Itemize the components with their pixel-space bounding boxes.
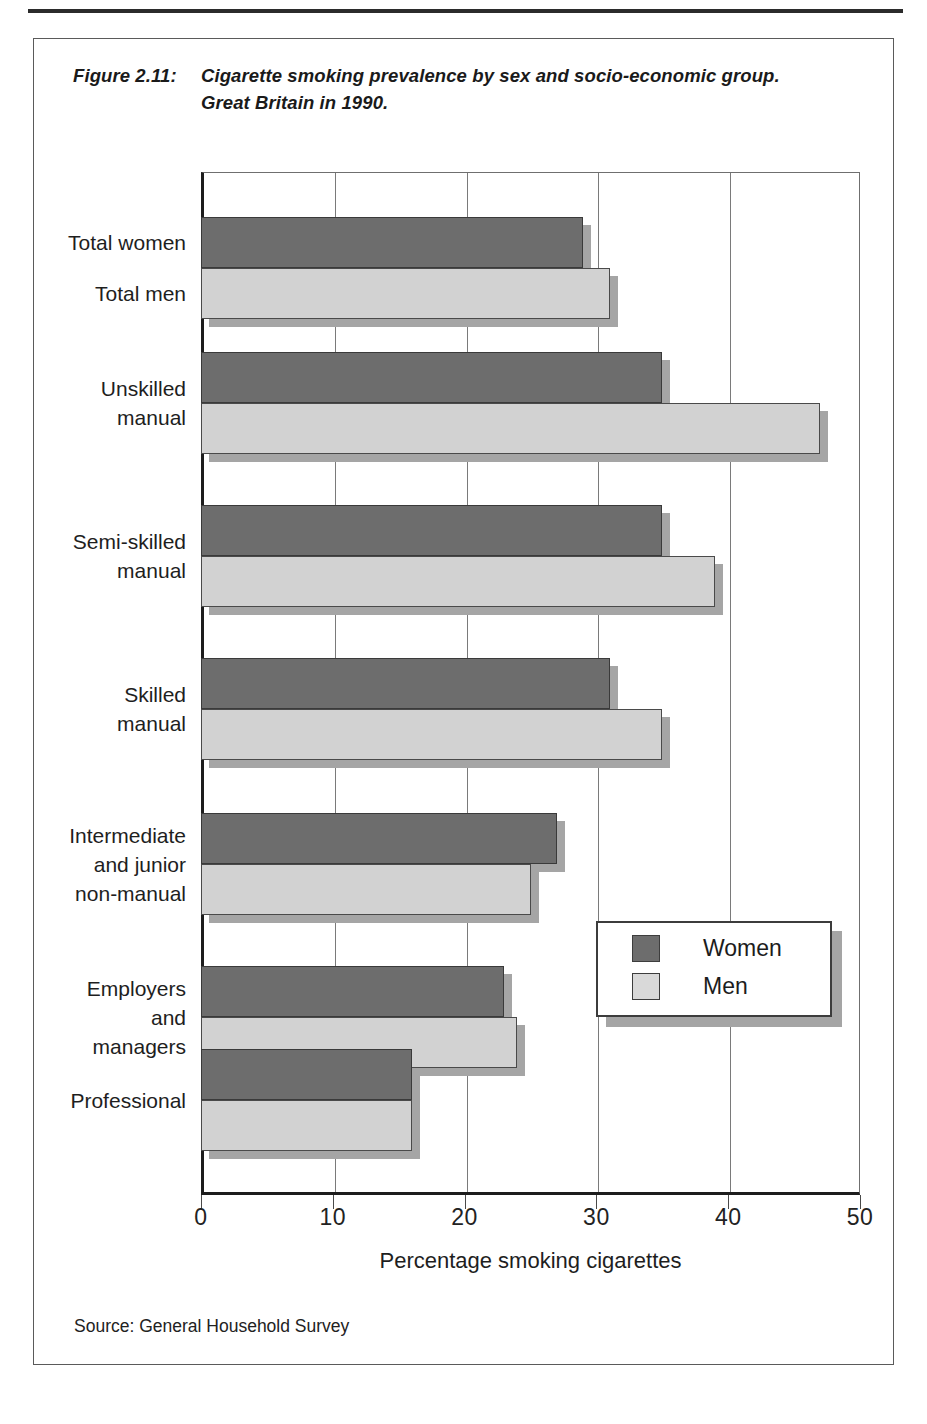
- bar-men: [201, 709, 662, 760]
- bar-body: [201, 864, 531, 915]
- bar-body: [201, 966, 504, 1017]
- bar-body: [201, 268, 610, 319]
- chart-legend: Women Men: [596, 921, 832, 1017]
- men-swatch-icon: [632, 973, 660, 1000]
- bar-women: [201, 966, 504, 1017]
- bar-men: [201, 268, 610, 319]
- x-axis-title: Percentage smoking cigarettes: [201, 1248, 860, 1274]
- bar-body: [201, 403, 820, 454]
- bar-women: [201, 813, 557, 864]
- legend-label-men: Men: [703, 973, 748, 1000]
- bar-women: [201, 658, 610, 709]
- bar-men: [201, 403, 820, 454]
- x-tick-label: 20: [451, 1204, 478, 1231]
- legend-entry-women: Women: [632, 935, 782, 962]
- women-swatch-icon: [632, 935, 660, 962]
- legend-entry-men: Men: [632, 973, 748, 1000]
- source-note: Source: General Household Survey: [74, 1316, 349, 1337]
- bar-women: [201, 352, 662, 403]
- bar-women: [201, 505, 662, 556]
- x-tick-label: 10: [320, 1204, 347, 1231]
- bar-men: [201, 556, 715, 607]
- bar-women: [201, 217, 583, 268]
- x-tick-label: 50: [847, 1204, 874, 1231]
- bar-body: [201, 556, 715, 607]
- bar-men: [201, 1100, 412, 1151]
- bar-women: [201, 1049, 412, 1100]
- bar-body: [201, 813, 557, 864]
- legend-label-women: Women: [703, 935, 782, 962]
- x-tick-label: 0: [194, 1204, 207, 1231]
- x-tick-label: 30: [583, 1204, 610, 1231]
- bar-chart: Total womenTotal menUnskilledmanualSemi-…: [0, 0, 927, 1424]
- bar-body: [201, 352, 662, 403]
- bar-body: [201, 505, 662, 556]
- bar-body: [201, 1049, 412, 1100]
- bar-body: [201, 709, 662, 760]
- bar-men: [201, 864, 531, 915]
- bar-body: [201, 217, 583, 268]
- bar-body: [201, 658, 610, 709]
- bar-body: [201, 1100, 412, 1151]
- x-tick-label: 40: [715, 1204, 742, 1231]
